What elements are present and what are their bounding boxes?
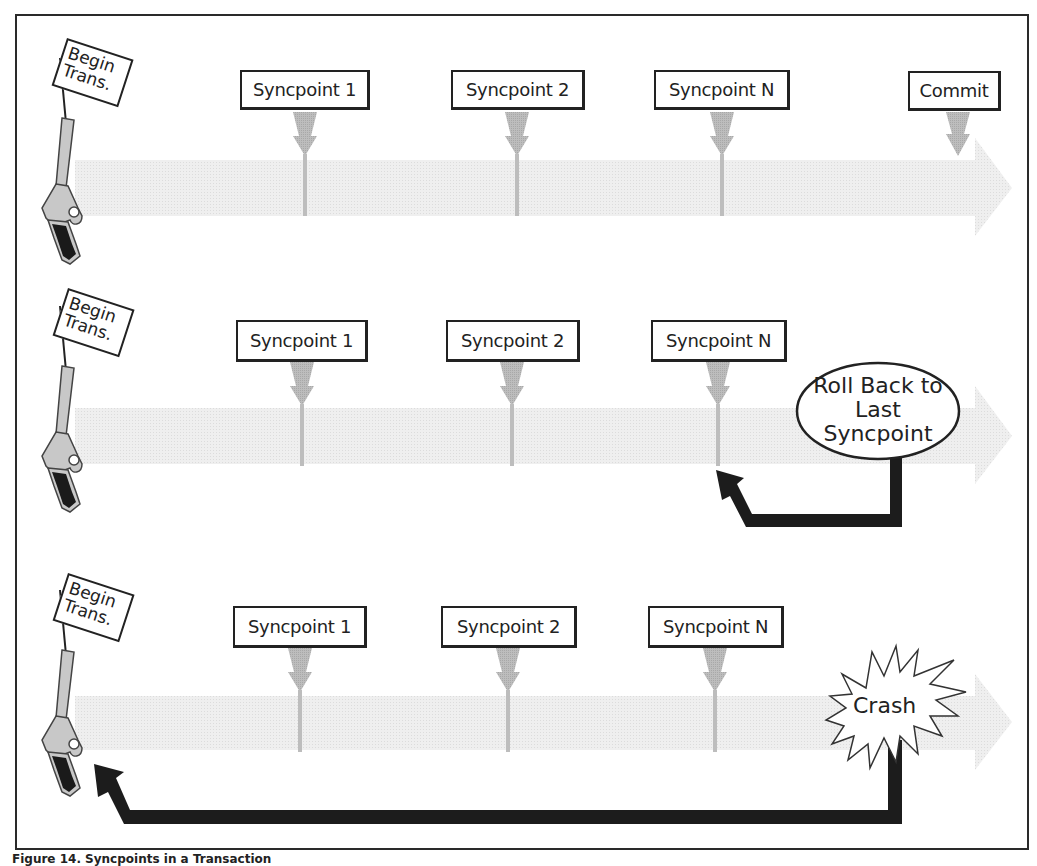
- syncpoint-2-label: Syncpoint 2: [446, 320, 580, 362]
- syncpoint-n-label: Syncpoint N: [648, 606, 784, 648]
- commit-marker: [946, 112, 970, 156]
- syncpoint-2-label: Syncpoint 2: [451, 70, 585, 110]
- commit-label: Commit: [908, 71, 1001, 111]
- syncpoint-n-label: Syncpoint N: [654, 70, 790, 110]
- figure-caption: Figure 14. Syncpoints in a Transaction: [12, 852, 271, 866]
- rollback-label: Roll Back to Last Syncpoint: [797, 374, 959, 446]
- syncpoint-n-label: Syncpoint N: [651, 320, 787, 362]
- timeline-band-arrow: [75, 138, 1012, 236]
- syncpoint-1-label: Syncpoint 1: [233, 606, 367, 648]
- crash-label: Crash: [853, 693, 916, 718]
- syncpoint-2-label: Syncpoint 2: [441, 606, 577, 648]
- syncpoint-1-label: Syncpoint 1: [240, 70, 370, 110]
- syncpoint-1-label: Syncpoint 1: [236, 320, 368, 362]
- crash-return-arrow: [94, 740, 902, 824]
- rollback-line-2: Last: [797, 398, 959, 422]
- rollback-line-1: Roll Back to: [797, 374, 959, 398]
- rollback-line-3: Syncpoint: [797, 422, 959, 446]
